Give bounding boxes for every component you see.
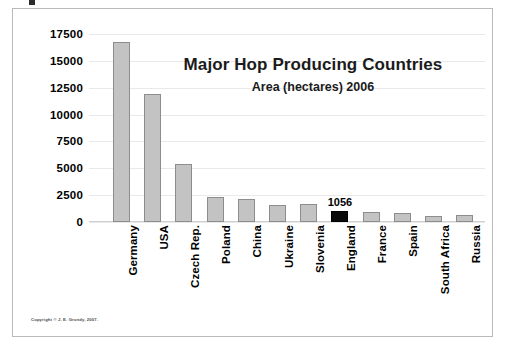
- chart-subtitle: Area (hectares) 2006: [163, 80, 463, 94]
- x-axis-tick-label: Poland: [220, 225, 232, 264]
- x-axis-tick-label: USA: [158, 225, 170, 250]
- x-axis: GermanyUSACzech Rep.PolandChinaUkraineSl…: [89, 225, 485, 321]
- bar-czech-rep[interactable]: [175, 164, 192, 222]
- bar-england[interactable]: [331, 211, 348, 222]
- y-axis-tick-label: 7500: [57, 135, 83, 147]
- gridline: [89, 222, 485, 223]
- x-axis-tick-label: Slovenia: [314, 225, 326, 273]
- scan-artifact: [29, 0, 35, 5]
- x-axis-tick-label: France: [376, 225, 388, 263]
- y-axis-tick-label: 17500: [50, 28, 83, 40]
- x-axis-tick-label: England: [345, 225, 357, 271]
- chart-title: Major Hop Producing Countries: [163, 55, 463, 75]
- bar-ukraine[interactable]: [269, 205, 286, 222]
- bar-china[interactable]: [238, 199, 255, 222]
- y-axis-tick-label: 2500: [57, 189, 83, 201]
- bar-spain[interactable]: [394, 213, 411, 222]
- x-axis-tick-label: South Africa: [439, 225, 451, 294]
- bar-usa[interactable]: [144, 94, 161, 222]
- x-axis-tick-label: Russia: [470, 225, 482, 263]
- bar-poland[interactable]: [207, 197, 224, 222]
- y-axis-tick-label: 12500: [50, 82, 83, 94]
- copyright-notice: Copyright © J. E. Grundy, 2007.: [31, 317, 98, 322]
- chart-canvas: 175001500012500100007500500025000 1056 G…: [13, 9, 492, 336]
- bar-value-label: 1056: [328, 196, 352, 208]
- x-axis-tick-label: China: [251, 225, 263, 257]
- bar-slovenia[interactable]: [300, 204, 317, 222]
- x-axis-tick-label: Czech Rep.: [189, 225, 201, 288]
- y-axis: 175001500012500100007500500025000: [31, 34, 83, 222]
- y-axis-tick-label: 5000: [57, 162, 83, 174]
- gridline: [89, 34, 485, 35]
- bar-south-africa[interactable]: [425, 216, 442, 222]
- bar-russia[interactable]: [456, 215, 473, 222]
- y-axis-tick-label: 15000: [50, 55, 83, 67]
- title-block: Major Hop Producing Countries Area (hect…: [163, 55, 463, 94]
- y-axis-tick-label: 10000: [50, 109, 83, 121]
- x-axis-tick-label: Spain: [407, 225, 419, 257]
- y-axis-tick-label: 0: [76, 216, 83, 228]
- chart-frame: 175001500012500100007500500025000 1056 G…: [12, 8, 493, 337]
- bar-france[interactable]: [363, 212, 380, 222]
- x-axis-tick-label: Ukraine: [283, 225, 295, 268]
- bar-germany[interactable]: [113, 42, 130, 222]
- x-axis-tick-label: Germany: [127, 225, 139, 276]
